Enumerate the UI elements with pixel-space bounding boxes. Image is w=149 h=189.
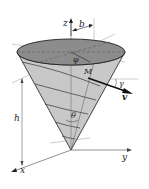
velocity-label: v — [122, 92, 128, 102]
x-axis-label: x — [20, 165, 25, 175]
z-axis-arrow — [69, 18, 73, 36]
y-axis-label: y — [121, 152, 128, 162]
gamma-arc — [115, 79, 116, 87]
radius-label: b — [79, 19, 85, 29]
theta-label: θ — [71, 111, 76, 120]
height-label: h — [14, 113, 20, 123]
point-label: M — [83, 67, 93, 76]
base-axes — [14, 150, 128, 171]
y-axis-arrowhead — [127, 148, 132, 152]
cone-diagram: z b φ M γ v θ h x y — [0, 0, 149, 189]
height-dimension — [21, 78, 24, 166]
x-axis-arrowhead — [11, 168, 17, 172]
gamma-label: γ — [119, 79, 124, 88]
azimuth-label: φ — [73, 55, 79, 64]
z-axis-label: z — [62, 18, 68, 28]
